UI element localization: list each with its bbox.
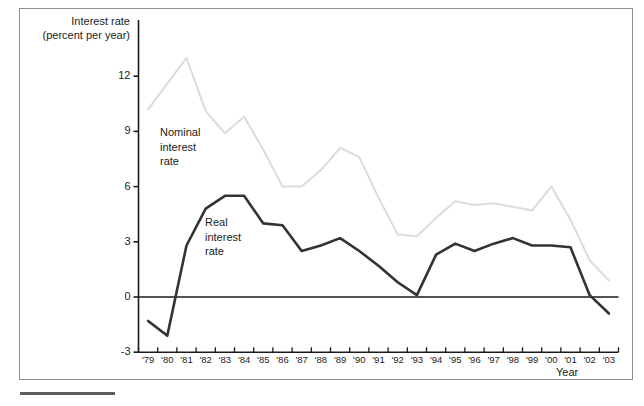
- nominal-label-line2: interest: [160, 140, 200, 155]
- nominal-label-line1: Nominal: [160, 125, 200, 140]
- y-tick-label: -3: [105, 345, 131, 357]
- real-label-line3: rate: [205, 244, 241, 259]
- axes-group: [134, 20, 619, 352]
- x-tick-label: '03: [597, 354, 621, 365]
- series-group: [148, 58, 609, 336]
- y-tick-label: 12: [105, 69, 131, 81]
- y-tick-label: 6: [105, 180, 131, 192]
- y-tick-label: 0: [105, 290, 131, 302]
- series-label-nominal: Nominal interest rate: [160, 125, 200, 169]
- y-axis-title-line1: Interest rate: [26, 14, 130, 28]
- chart-plot-area: [0, 0, 644, 406]
- nominal-label-line3: rate: [160, 154, 200, 169]
- y-tick-label: 9: [105, 124, 131, 136]
- x-axis-title: Year: [556, 366, 578, 378]
- y-axis-title-line2: (percent per year): [26, 28, 130, 42]
- real-label-line2: interest: [205, 230, 241, 245]
- y-axis-title: Interest rate (percent per year): [26, 14, 130, 42]
- real-label-line1: Real: [205, 215, 241, 230]
- series-label-real: Real interest rate: [205, 215, 241, 259]
- interest-rate-chart-figure: Interest rate (percent per year) Year No…: [0, 0, 644, 406]
- y-tick-label: 3: [105, 235, 131, 247]
